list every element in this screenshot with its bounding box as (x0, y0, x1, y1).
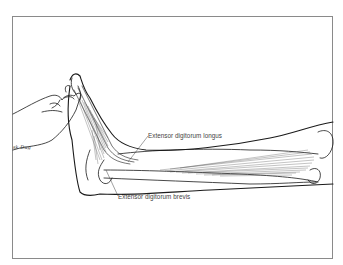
extensor-digitorum-brevis-hatching (78, 100, 108, 164)
hand-drawing (13, 93, 81, 150)
label-extensor-digitorum-longus: Extensor digitorum longus (148, 132, 222, 139)
label-extensor-digitorum-brevis: Extensor digitorum brevis (118, 193, 190, 200)
artist-signature: sk Dug (13, 144, 31, 150)
